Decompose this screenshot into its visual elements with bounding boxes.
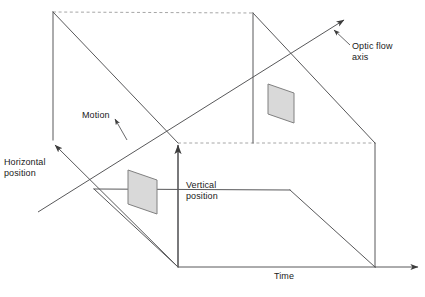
vertical-position-label: Vertical position bbox=[186, 180, 218, 202]
motion-arrow bbox=[115, 119, 127, 140]
cube-edge-top-right-receding bbox=[253, 13, 375, 143]
rear-stimulus-patch bbox=[268, 84, 294, 123]
optic-flow-axis-label: Optic flow axis bbox=[352, 41, 393, 63]
front-stimulus-patch bbox=[128, 170, 157, 214]
cube-edge-back-top bbox=[53, 12, 253, 13]
cube-edge-top-left-receding bbox=[53, 12, 178, 143]
motion-label: Motion bbox=[82, 110, 110, 121]
time-label: Time bbox=[274, 271, 294, 282]
cube-edge-bottom-right-receding bbox=[290, 190, 375, 267]
optic-flow-leader-line bbox=[334, 30, 350, 45]
optic-flow-diagram: Optic flow axis Horizontal position Vert… bbox=[0, 0, 425, 297]
horizontal-position-label: Horizontal position bbox=[4, 157, 46, 179]
